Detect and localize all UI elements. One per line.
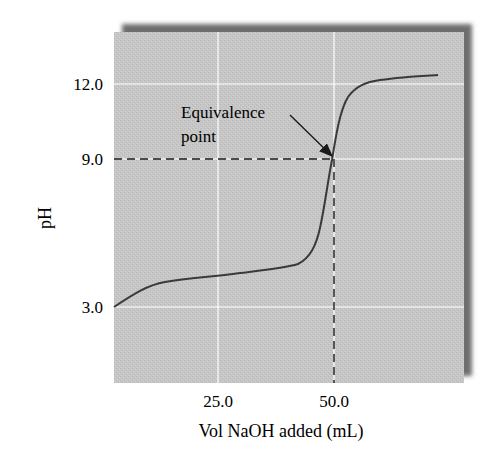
- equivalence-label-line1: Equivalence: [181, 103, 265, 122]
- y-tick-12: 12.0: [73, 75, 103, 94]
- y-axis-label: pH: [35, 207, 55, 229]
- y-tick-3: 3.0: [82, 298, 103, 317]
- plot-area: [114, 32, 464, 383]
- x-tick-50: 50.0: [319, 392, 349, 411]
- x-axis-label: Vol NaOH added (mL): [198, 421, 363, 442]
- titration-chart: Equivalence point 12.0 9.0 3.0 25.0 50.0…: [0, 0, 484, 456]
- y-tick-9: 9.0: [82, 150, 103, 169]
- equivalence-label-line2: point: [181, 127, 216, 146]
- x-tick-25: 25.0: [203, 392, 233, 411]
